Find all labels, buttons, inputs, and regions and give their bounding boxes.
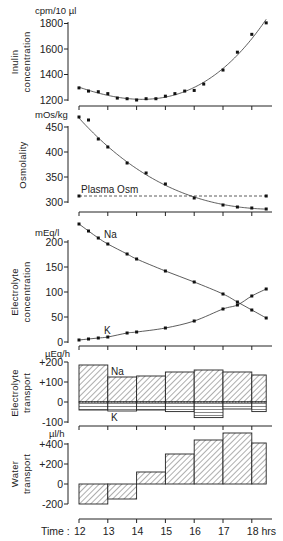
time-tick-labels: 12131415161718 hrs bbox=[74, 525, 276, 537]
y-tick-label: +100 bbox=[39, 376, 63, 388]
k-transport-bar bbox=[252, 402, 266, 412]
data-point bbox=[250, 295, 253, 298]
time-tick-label: 15 bbox=[160, 525, 172, 537]
data-point bbox=[236, 304, 239, 307]
data-point bbox=[145, 172, 148, 175]
y-tick-label: -100 bbox=[42, 416, 63, 428]
panel-inulin: cpm/10 µl Inulin concentration 120014001… bbox=[9, 5, 272, 110]
na-transport-bar bbox=[223, 372, 252, 402]
data-point bbox=[78, 116, 81, 119]
data-point bbox=[78, 339, 81, 342]
electrolyte-transport-ylabel-line1: Electrolyte bbox=[9, 369, 20, 417]
data-point bbox=[236, 206, 239, 209]
na-series-label: Na bbox=[104, 229, 117, 240]
data-point bbox=[135, 331, 138, 334]
y-tick-label: 200 bbox=[45, 236, 63, 248]
time-axis-label: Time : bbox=[41, 525, 70, 537]
na-transport-bar bbox=[137, 376, 166, 402]
time-tick-label: 12 bbox=[74, 525, 86, 537]
data-point bbox=[78, 223, 81, 226]
time-tick-label: 17 bbox=[218, 525, 230, 537]
electrolyte-conc-data-points bbox=[78, 223, 268, 342]
data-point bbox=[183, 90, 186, 93]
data-point bbox=[106, 146, 109, 149]
data-point bbox=[106, 92, 109, 95]
data-point bbox=[164, 183, 167, 186]
osmolality-y-axis: 300350400450 bbox=[45, 121, 68, 208]
time-x-axis bbox=[79, 519, 272, 523]
y-tick-label: +400 bbox=[39, 438, 63, 450]
data-point bbox=[164, 270, 167, 273]
panel-water-transport: µl/h Water transport -2000+200+400 Time … bbox=[9, 428, 276, 537]
time-tick-label: 14 bbox=[132, 525, 144, 537]
osmolality-ylabel: Osmolality bbox=[17, 141, 28, 188]
water-transport-bar bbox=[108, 484, 137, 499]
data-point bbox=[193, 89, 196, 92]
water-transport-bars bbox=[79, 433, 266, 504]
water-transport-bar bbox=[252, 443, 266, 484]
data-point bbox=[78, 86, 81, 89]
data-point bbox=[87, 90, 90, 93]
data-point bbox=[222, 293, 225, 296]
data-point bbox=[145, 97, 148, 100]
data-point bbox=[265, 21, 268, 24]
na-transport-bar bbox=[79, 365, 108, 402]
water-transport-ylabel-line1: Water bbox=[9, 461, 20, 487]
electrolyte-conc-y-axis: 050100150200 bbox=[45, 236, 68, 348]
data-point bbox=[87, 338, 90, 341]
osmolality-fit-curve bbox=[79, 118, 266, 209]
electrolyte-transport-bars bbox=[79, 365, 266, 418]
data-point bbox=[222, 308, 225, 311]
inulin-fit-curve bbox=[79, 19, 266, 99]
data-point bbox=[193, 320, 196, 323]
data-point bbox=[126, 162, 129, 165]
data-point bbox=[265, 288, 268, 291]
k-transport-label: K bbox=[111, 412, 118, 423]
inulin-ylabel-line1: Inulin bbox=[9, 50, 20, 75]
data-point bbox=[236, 51, 239, 54]
electrolyte-conc-ylabel-line2: concentration bbox=[21, 262, 32, 323]
panel-osmolality: mOs/kg Osmolality 300350400450 Plasma Os… bbox=[17, 109, 272, 216]
y-tick-label: 0 bbox=[57, 478, 63, 490]
y-tick-label: 1400 bbox=[40, 68, 64, 80]
electrolyte-conc-x-axis bbox=[79, 346, 272, 350]
plasma-osm-point bbox=[265, 195, 268, 198]
k-series-label: K bbox=[104, 325, 111, 336]
data-point bbox=[164, 327, 167, 330]
data-point bbox=[173, 92, 176, 95]
data-point bbox=[202, 83, 205, 86]
physiology-figure: cpm/10 µl Inulin concentration 120014001… bbox=[0, 0, 283, 541]
data-point bbox=[135, 258, 138, 261]
data-point bbox=[222, 69, 225, 72]
inulin-x-axis bbox=[79, 106, 272, 110]
k-transport-bar bbox=[194, 402, 223, 418]
data-point bbox=[236, 301, 239, 304]
y-tick-label: 400 bbox=[45, 146, 63, 158]
electrolyte-transport-ylabel-line2: transport bbox=[21, 373, 32, 413]
y-tick-label: 0 bbox=[57, 396, 63, 408]
k-transport-bar bbox=[165, 402, 194, 412]
y-tick-label: 350 bbox=[45, 171, 63, 183]
electrolyte-conc-ylabel-line1: Electrolyte bbox=[9, 268, 20, 316]
time-tick-label: 13 bbox=[103, 525, 115, 537]
data-point bbox=[97, 90, 100, 93]
data-point bbox=[193, 197, 196, 200]
y-tick-label: 0 bbox=[57, 336, 63, 348]
plasma-osm-point bbox=[78, 195, 81, 198]
k-transport-bar bbox=[108, 402, 137, 411]
plasma-osm-label: Plasma Osm bbox=[81, 184, 138, 195]
y-tick-label: 1800 bbox=[40, 17, 64, 29]
electrolyte-transport-y-axis: -1000+100+200 bbox=[39, 356, 68, 428]
data-point bbox=[126, 332, 129, 335]
data-point bbox=[250, 33, 253, 36]
data-point bbox=[87, 230, 90, 233]
chart-canvas: cpm/10 µl Inulin concentration 120014001… bbox=[0, 0, 283, 541]
k-transport-bar bbox=[223, 402, 252, 409]
data-point bbox=[265, 208, 268, 211]
na-transport-bar bbox=[108, 377, 137, 402]
y-tick-label: 450 bbox=[45, 121, 63, 133]
data-point bbox=[97, 138, 100, 141]
data-point bbox=[106, 243, 109, 246]
y-tick-label: 100 bbox=[45, 286, 63, 298]
time-tick-label: 18 hrs bbox=[247, 525, 276, 537]
